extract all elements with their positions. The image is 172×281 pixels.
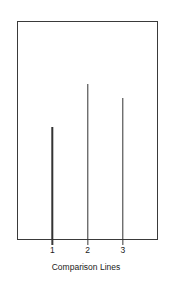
x-tick-label-3: 3 [113, 245, 133, 255]
x-tick-label-1: 1 [42, 245, 62, 255]
x-axis-title: Comparison Lines [0, 262, 172, 273]
chart-figure: 123 Comparison Lines [0, 0, 172, 281]
x-tick-label-2: 2 [78, 245, 98, 255]
chart-line-2 [87, 84, 88, 240]
chart-line-3 [122, 98, 123, 240]
plot-area [17, 21, 158, 240]
chart-line-1 [52, 127, 53, 240]
